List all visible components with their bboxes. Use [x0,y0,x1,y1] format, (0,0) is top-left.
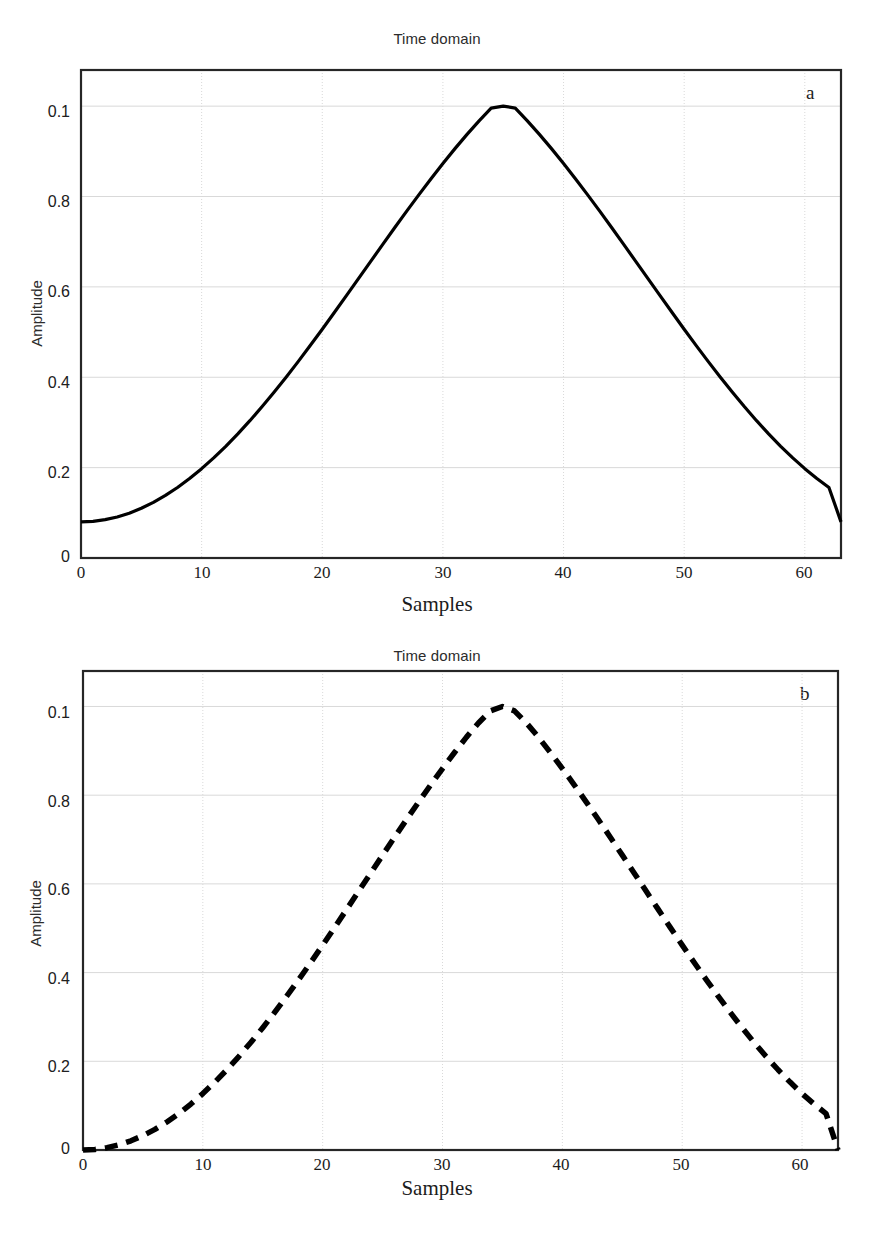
chart-b-plot-area [0,620,874,1235]
chart-panel-b: Time domain Amplitude 0.1 0.8 0.6 0.4 0.… [0,620,874,1235]
figure-window-functions: Time domain Amplitude 0.1 0.8 0.6 0.4 0.… [0,0,874,1235]
chart-a-plot-area [0,0,874,620]
chart-panel-a: Time domain Amplitude 0.1 0.8 0.6 0.4 0.… [0,0,874,620]
data-series-line [83,706,838,1150]
plot-frame [83,671,838,1150]
data-series-line [81,106,841,522]
